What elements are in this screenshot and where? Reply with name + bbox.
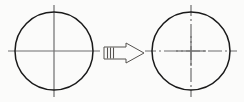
diagram-svg (0, 0, 244, 102)
diagram-canvas (0, 0, 244, 102)
